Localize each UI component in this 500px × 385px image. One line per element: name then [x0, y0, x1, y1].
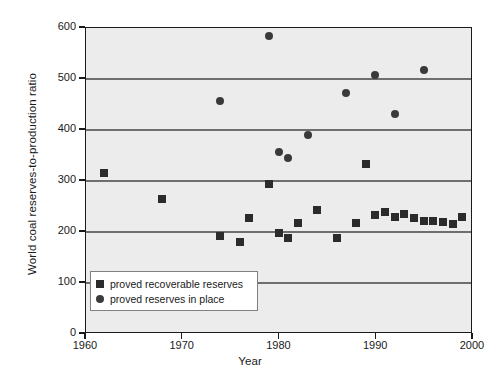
- data-point-square: [352, 219, 360, 227]
- data-point-square: [265, 180, 273, 188]
- x-axis-tick-label: 1960: [57, 339, 113, 351]
- data-point-square: [284, 234, 292, 242]
- data-point-square: [381, 208, 389, 216]
- legend-label: proved reserves in place: [110, 293, 224, 305]
- y-axis-tick-label: 600: [36, 20, 76, 32]
- legend-item-proved-recoverable-reserves: proved recoverable reserves: [96, 276, 251, 291]
- x-axis-tick-label: 1970: [154, 339, 210, 351]
- data-point-square: [313, 206, 321, 214]
- gridline: [86, 180, 471, 181]
- data-point-circle: [275, 148, 283, 156]
- data-point-square: [371, 211, 379, 219]
- y-axis-tick: [79, 281, 85, 282]
- y-axis-tick: [79, 179, 85, 180]
- y-axis-tick-label: 100: [36, 275, 76, 287]
- y-axis-tick-label: 0: [36, 326, 76, 338]
- data-point-square: [420, 217, 428, 225]
- data-point-square: [458, 213, 466, 221]
- data-point-square: [410, 214, 418, 222]
- chart-legend: proved recoverable reserves proved reser…: [90, 271, 258, 311]
- data-point-square: [100, 169, 108, 177]
- legend-item-proved-reserves-in-place: proved reserves in place: [96, 291, 251, 306]
- data-point-circle: [342, 89, 350, 97]
- x-axis-tick-label: 2000: [444, 339, 500, 351]
- data-point-square: [275, 229, 283, 237]
- data-point-circle: [304, 131, 312, 139]
- x-axis-title: Year: [0, 355, 500, 367]
- y-axis-tick: [79, 26, 85, 27]
- data-point-square: [216, 232, 224, 240]
- gridline: [86, 129, 471, 130]
- data-point-square: [294, 219, 302, 227]
- data-point-square: [158, 195, 166, 203]
- data-point-square: [362, 160, 370, 168]
- data-point-square: [449, 220, 457, 228]
- y-axis-tick-label: 300: [36, 173, 76, 185]
- y-axis-tick-label: 200: [36, 224, 76, 236]
- circle-marker-icon: [96, 295, 104, 303]
- data-point-square: [439, 218, 447, 226]
- legend-label: proved recoverable reserves: [110, 278, 243, 290]
- gridline: [86, 78, 471, 79]
- data-point-square: [400, 210, 408, 218]
- y-axis-tick: [79, 230, 85, 231]
- data-point-square: [245, 214, 253, 222]
- y-axis-tick: [79, 77, 85, 78]
- x-axis-tick-label: 1980: [251, 339, 307, 351]
- data-point-circle: [265, 32, 273, 40]
- data-point-circle: [284, 154, 292, 162]
- coal-reserves-scatter-chart: World coal reserves-to-production ratio …: [0, 0, 500, 385]
- data-point-circle: [391, 110, 399, 118]
- y-axis-tick-label: 500: [36, 71, 76, 83]
- data-point-square: [236, 238, 244, 246]
- data-point-square: [333, 234, 341, 242]
- x-axis-tick-label: 1990: [347, 339, 403, 351]
- data-point-square: [429, 217, 437, 225]
- data-point-circle: [420, 66, 428, 74]
- square-marker-icon: [96, 280, 104, 288]
- y-axis-tick-label: 400: [36, 122, 76, 134]
- y-axis-tick: [79, 128, 85, 129]
- data-point-square: [391, 213, 399, 221]
